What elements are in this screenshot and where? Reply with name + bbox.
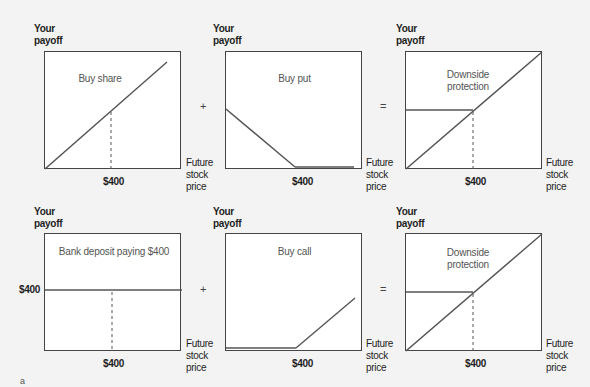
x-axis-label-r2p3: Future stock price — [546, 338, 573, 374]
x-label-line2: stock — [366, 350, 393, 362]
chart-title: Downside protection — [428, 69, 508, 93]
y-axis-label-r2p1: Your payoff — [34, 206, 62, 230]
x-label-line1: Future — [186, 338, 213, 350]
x-label-line1: Future — [366, 157, 393, 169]
y-label-line2: payoff — [34, 35, 62, 47]
footnote-mark: a — [20, 376, 25, 386]
chart-title: Buy share — [45, 73, 155, 85]
payoff-chart-bank-deposit: Bank deposit paying $400 — [44, 233, 181, 351]
chart-title: Buy put — [226, 73, 363, 85]
y-label-line2: payoff — [213, 218, 241, 230]
x-label-line3: price — [546, 362, 573, 374]
strike-tick-label: $400 — [292, 176, 313, 187]
strike-tick-label: $400 — [103, 176, 124, 187]
payoff-line-put — [226, 52, 363, 170]
chart-title: Downside protection — [428, 247, 508, 271]
y-label-line2: payoff — [396, 218, 424, 230]
y-label-line1: Your — [213, 206, 241, 218]
x-axis-label-r1p2: Future stock price — [366, 157, 393, 193]
x-axis-label-r1p1: Future stock price — [186, 157, 213, 193]
y-axis-label-r1p2: Your payoff — [213, 23, 241, 47]
x-label-line3: price — [366, 362, 393, 374]
title-line2: protection — [428, 81, 508, 93]
x-label-line1: Future — [546, 157, 573, 169]
plus-operator: + — [200, 100, 206, 112]
y-label-line1: Your — [34, 206, 62, 218]
chart-title: Buy call — [226, 246, 363, 258]
title-line1: Downside — [428, 247, 508, 259]
x-label-line2: stock — [546, 169, 573, 181]
x-label-line3: price — [186, 362, 213, 374]
x-label-line2: stock — [186, 350, 213, 362]
y-label-line1: Your — [396, 23, 424, 35]
x-label-line2: stock — [366, 169, 393, 181]
y-axis-label-r1p3: Your payoff — [396, 23, 424, 47]
x-label-line2: stock — [186, 169, 213, 181]
title-line2: protection — [428, 259, 508, 271]
x-label-line1: Future — [546, 338, 573, 350]
strike-tick-label: $400 — [465, 358, 486, 369]
payoff-chart-downside-protection-2: Downside protection — [405, 233, 542, 351]
y-axis-label-r2p2: Your payoff — [213, 206, 241, 230]
plus-operator: + — [200, 283, 206, 295]
y-tick-label-bank: $400 — [19, 284, 40, 295]
strike-tick-label: $400 — [292, 358, 313, 369]
equals-operator: = — [380, 100, 386, 112]
chart-title: Bank deposit paying $400 — [49, 246, 179, 258]
title-line1: Downside — [428, 69, 508, 81]
x-axis-label-r2p2: Future stock price — [366, 338, 393, 374]
y-label-line1: Your — [213, 23, 241, 35]
x-label-line3: price — [546, 181, 573, 193]
payoff-line-diagonal — [45, 52, 182, 170]
x-label-line2: stock — [546, 350, 573, 362]
payoff-chart-downside-protection: Downside protection — [405, 51, 542, 169]
payoff-chart-buy-put: Buy put — [225, 51, 362, 169]
equals-operator: = — [380, 283, 386, 295]
y-axis-label-r1p1: Your payoff — [34, 23, 62, 47]
y-label-line2: payoff — [34, 218, 62, 230]
strike-tick-label: $400 — [103, 358, 124, 369]
y-label-line1: Your — [396, 206, 424, 218]
x-label-line1: Future — [186, 157, 213, 169]
x-label-line1: Future — [366, 338, 393, 350]
payoff-chart-buy-call: Buy call — [225, 233, 362, 351]
x-axis-label-r1p3: Future stock price — [546, 157, 573, 193]
x-axis-label-r2p1: Future stock price — [186, 338, 213, 374]
strike-tick-label: $400 — [465, 176, 486, 187]
x-label-line3: price — [366, 181, 393, 193]
y-label-line2: payoff — [396, 35, 424, 47]
y-label-line1: Your — [34, 23, 62, 35]
y-axis-label-r2p3: Your payoff — [396, 206, 424, 230]
payoff-chart-buy-share: Buy share — [44, 51, 181, 169]
y-label-line2: payoff — [213, 35, 241, 47]
x-label-line3: price — [186, 181, 213, 193]
